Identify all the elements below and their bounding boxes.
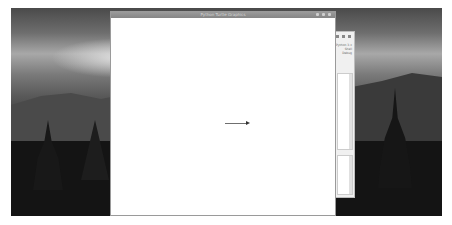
- maximize-icon[interactable]: [322, 13, 325, 16]
- turtle-canvas[interactable]: [111, 18, 335, 215]
- close-icon[interactable]: [348, 35, 351, 38]
- background-panel-bottom[interactable]: [337, 155, 353, 195]
- scrollbar[interactable]: [349, 156, 352, 194]
- close-icon[interactable]: [328, 13, 331, 16]
- background-window-controls: [336, 35, 351, 38]
- turtle-line: [225, 123, 248, 124]
- maximize-icon[interactable]: [342, 35, 345, 38]
- background-panel-top[interactable]: [337, 73, 353, 150]
- scrollbar[interactable]: [349, 74, 352, 149]
- turtle-arrow-icon: [246, 121, 250, 125]
- turtle-graphics-window[interactable]: Python Turtle Graphics: [110, 11, 336, 216]
- minimize-icon[interactable]: [336, 35, 339, 38]
- minimize-icon[interactable]: [316, 13, 319, 16]
- window-controls: [316, 13, 331, 16]
- background-text-line: Debug: [336, 51, 352, 55]
- background-window-text: Python 3.x Shell Debug: [336, 43, 352, 55]
